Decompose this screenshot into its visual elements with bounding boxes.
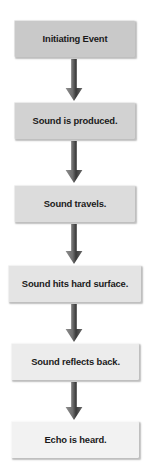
flow-node: Sound travels. — [14, 185, 135, 222]
flow-node: Sound hits hard surface. — [8, 265, 141, 302]
flow-node: Sound reflects back. — [11, 343, 139, 380]
flow-node-label: Sound travels. — [41, 199, 110, 209]
flow-arrow — [65, 224, 83, 264]
flow-node-label: Sound is produced. — [30, 116, 121, 126]
flow-node-label: Sound hits hard surface. — [19, 279, 131, 289]
flow-arrow — [65, 59, 83, 101]
flow-arrow — [65, 382, 83, 420]
flow-node-label: Echo is heard. — [42, 435, 110, 445]
flow-node: Sound is produced. — [14, 102, 135, 139]
flow-node-label: Sound reflects back. — [28, 357, 123, 367]
flow-arrow — [65, 141, 83, 183]
flow-node: Echo is heard. — [11, 421, 139, 458]
flow-node: Initiating Event — [14, 20, 135, 57]
flow-node-label: Initiating Event — [40, 34, 111, 44]
flow-arrow — [65, 304, 83, 342]
flowchart-diagram: Initiating EventSound is produced.Sound … — [0, 0, 149, 466]
